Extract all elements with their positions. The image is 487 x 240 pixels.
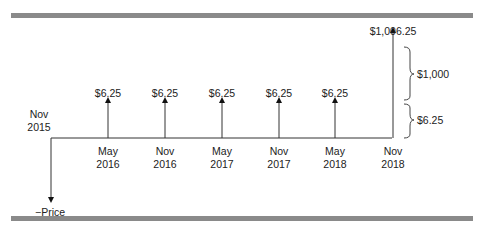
period-year: 2018 (315, 158, 355, 171)
start-year: 2015 (24, 121, 54, 134)
period-month: May (202, 145, 242, 158)
period-year: 2017 (202, 158, 242, 171)
period-month: May (315, 145, 355, 158)
start-date-label: Nov 2015 (24, 108, 54, 134)
cash-flow-label: $6.25 (145, 87, 185, 100)
period-date-label: May 2018 (315, 145, 355, 171)
period-month: May (88, 145, 128, 158)
period-month: Nov (145, 145, 185, 158)
period-date-label: May 2017 (202, 145, 242, 171)
period-date-label: Nov 2017 (259, 145, 299, 171)
period-year: 2017 (259, 158, 299, 171)
period-year: 2018 (373, 158, 413, 171)
cash-flow-label: $6.25 (259, 87, 299, 100)
period-month: Nov (259, 145, 299, 158)
period-year: 2016 (88, 158, 128, 171)
cash-flow-label-final: $1,006.25 (363, 25, 423, 38)
cash-flow-label: $6.25 (315, 87, 355, 100)
period-date-label: Nov 2018 (373, 145, 413, 171)
cash-flow-label: $6.25 (202, 87, 242, 100)
period-date-label: May 2016 (88, 145, 128, 171)
period-date-label: Nov 2016 (145, 145, 185, 171)
period-month: Nov (373, 145, 413, 158)
start-month: Nov (24, 108, 54, 121)
bracket-label-coupon: $6.25 (417, 114, 443, 127)
cash-flow-label: $6.25 (88, 87, 128, 100)
bracket-label-principal: $1,000 (417, 68, 449, 81)
period-year: 2016 (145, 158, 185, 171)
initial-price-label: −Price (35, 206, 65, 219)
